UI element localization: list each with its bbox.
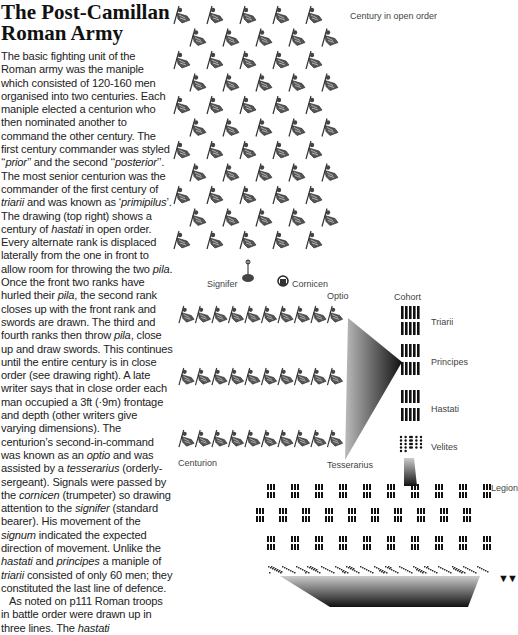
cohort-bar — [331, 508, 333, 514]
legionary-open-order — [273, 6, 289, 24]
cohort-bar — [438, 492, 440, 498]
legionary-open-order — [207, 186, 223, 204]
cohort-bar — [291, 484, 293, 490]
cohort-bar — [270, 492, 272, 498]
legionary-close-order — [195, 306, 210, 323]
cohort-bar — [483, 544, 485, 550]
velites-dot — [415, 439, 417, 441]
maniple-bar — [413, 306, 416, 319]
legionary-close-order — [245, 306, 260, 323]
legionary-close-order — [245, 368, 260, 385]
cohort-bar — [486, 536, 488, 542]
legion-diagram — [256, 484, 491, 550]
legionary-close-order — [179, 430, 194, 447]
label-signifer: Signifer — [207, 279, 238, 289]
cohort-bar — [438, 536, 440, 542]
cohort-bar — [321, 544, 323, 550]
cohort-bar — [297, 492, 299, 498]
legionary-close-order — [327, 430, 342, 447]
maniple-bar — [405, 322, 408, 335]
cohort-bar — [325, 516, 327, 522]
legionary-open-order — [306, 6, 322, 24]
legionary-close-order — [228, 368, 243, 385]
legionary-open-order — [174, 231, 190, 249]
cohort-bar — [459, 536, 461, 542]
cohort-bar — [462, 544, 464, 550]
cohort-bar — [366, 492, 368, 498]
legionary-open-order — [223, 74, 239, 92]
cohort-bar — [369, 484, 371, 490]
cohort-bar — [390, 484, 392, 490]
legionary-close-order — [212, 430, 227, 447]
legionary-open-order — [289, 119, 305, 137]
cohort-bar — [345, 492, 347, 498]
velites-dot — [400, 443, 402, 445]
cohort-bar — [397, 508, 399, 514]
legionary-close-order — [294, 306, 309, 323]
cohort-bar — [366, 536, 368, 542]
cohort-bar — [483, 492, 485, 498]
cohort-bar — [297, 484, 299, 490]
cohort-bar — [291, 492, 293, 498]
legionary-close-order — [195, 368, 210, 385]
legionary-open-order — [256, 29, 272, 47]
cohort-bar — [469, 508, 471, 514]
cohort-bar — [417, 516, 419, 522]
cohort-bar — [318, 544, 320, 550]
cohort-bar — [315, 536, 317, 542]
legionary-close-order — [311, 430, 326, 447]
cohort-bar — [438, 484, 440, 490]
label-hastati: Hastati — [431, 404, 459, 414]
legionary-open-order — [240, 231, 256, 249]
cohort-bar — [285, 516, 287, 522]
cohort-bar — [318, 484, 320, 490]
legionary-open-order — [322, 164, 338, 182]
legionary-open-order — [256, 164, 272, 182]
cohort-diagram — [400, 306, 422, 452]
cohort-bar — [354, 516, 356, 522]
cohort-bar — [377, 508, 379, 514]
legionary-open-order — [207, 96, 223, 114]
cohort-bar — [489, 544, 491, 550]
cornicen-figure — [278, 276, 288, 286]
cohort-bar — [348, 508, 350, 514]
cohort-bar — [417, 492, 419, 498]
cohort-bar — [411, 492, 413, 498]
cohort-bar — [446, 508, 448, 514]
cohort-bar — [371, 508, 373, 514]
velites-dot — [404, 439, 406, 441]
cohort-bar — [400, 508, 402, 514]
maniple-bar — [413, 344, 416, 357]
cohort-bar — [321, 484, 323, 490]
cohort-bar — [294, 536, 296, 542]
cohort-bar — [342, 536, 344, 542]
legionary-close-order — [294, 430, 309, 447]
cohort-bar — [371, 516, 373, 522]
maniple-bar — [409, 306, 412, 319]
cohort-bar — [328, 516, 330, 522]
maniple-bar — [413, 362, 416, 375]
cohort-bar — [423, 516, 425, 522]
legionary-close-order — [294, 368, 309, 385]
legionary-open-order — [256, 119, 272, 137]
cohort-bar — [328, 508, 330, 514]
cohort-bar — [282, 516, 284, 522]
cohort-bar — [390, 544, 392, 550]
cohort-bar — [462, 492, 464, 498]
velites-dot — [420, 446, 422, 448]
legionary-open-order — [306, 141, 322, 159]
cohort-bar — [325, 508, 327, 514]
zoom-cone-legion — [280, 576, 480, 607]
legionary-open-order — [207, 51, 223, 69]
legionary-open-order — [322, 74, 338, 92]
velites-dot — [404, 436, 406, 438]
maniple-bar — [405, 362, 408, 375]
cohort-bar — [308, 508, 310, 514]
legionary-open-order — [190, 209, 206, 227]
legionary-open-order — [174, 51, 190, 69]
cohort-bar — [463, 508, 465, 514]
cohort-bar — [256, 516, 258, 522]
cohort-bar — [394, 516, 396, 522]
cohort-bar — [459, 484, 461, 490]
